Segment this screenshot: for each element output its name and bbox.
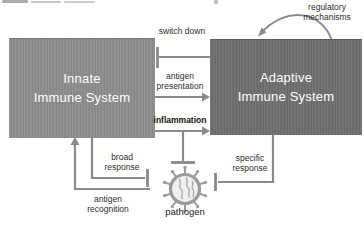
antigen-presentation-arrow xyxy=(155,93,210,102)
innate-immune-system-box: Innate Immune System xyxy=(9,38,155,138)
adaptive-box-label: Adaptive Immune System xyxy=(238,68,335,107)
immune-system-diagram: Innate Immune System Adaptive Immune Sys… xyxy=(0,0,364,229)
inflammation-label: inflammation xyxy=(146,115,214,125)
adaptive-immune-system-box: Adaptive Immune System xyxy=(210,39,362,135)
antigen-recognition-label: antigen recognition xyxy=(76,194,140,214)
inflammation-pathogen-inhibitor xyxy=(171,132,195,163)
specific-response-label: specific response xyxy=(224,153,276,173)
regulatory-mechanisms-label: regulatory mechanisms xyxy=(292,2,362,22)
switch-down-inhibitor-connector xyxy=(158,47,211,68)
innate-box-label: Innate Immune System xyxy=(34,69,131,108)
pathogen-label: pathogen xyxy=(152,206,218,217)
switch-down-label: switch down xyxy=(158,26,206,36)
broad-response-label: broad response xyxy=(96,152,148,172)
antigen-presentation-label: antigen presentation xyxy=(146,71,214,91)
